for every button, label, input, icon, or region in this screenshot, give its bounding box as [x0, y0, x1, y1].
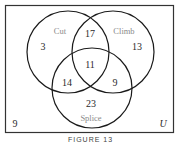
region-climb-only: 13 — [132, 41, 142, 52]
region-climb-splice: 9 — [113, 77, 118, 88]
venn-diagram: Cut Climb Splice 3 13 23 17 14 9 11 9 U — [0, 0, 181, 144]
region-cut-splice: 14 — [62, 77, 72, 88]
figure-caption: FIGURE 13 — [0, 136, 181, 143]
region-all-three: 11 — [85, 59, 95, 70]
region-cut-climb: 17 — [85, 28, 95, 39]
universe-label: U — [159, 118, 167, 129]
set-label-splice: Splice — [80, 113, 101, 123]
set-label-cut: Cut — [54, 26, 67, 36]
region-outside: 9 — [13, 118, 18, 129]
region-cut-only: 3 — [41, 41, 46, 52]
region-splice-only: 23 — [86, 98, 96, 109]
set-label-climb: Climb — [113, 26, 134, 36]
